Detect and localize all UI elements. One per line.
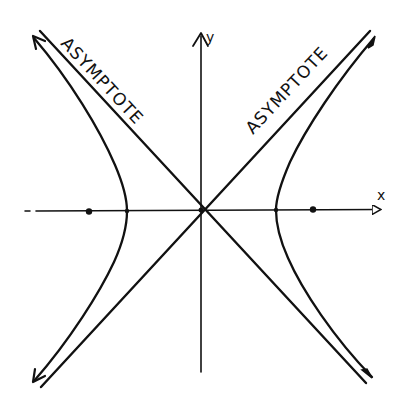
vertex-left [125, 209, 129, 213]
focus-left [86, 208, 92, 214]
vertex-right [274, 208, 278, 212]
arrowhead-icon [368, 36, 375, 48]
hyperbola-diagram: x y ASYMPTOTE ASYMPTOTE [0, 0, 403, 409]
asymptote-label-right: ASYMPTOTE [241, 42, 332, 137]
asymptote-nw-se [40, 31, 366, 383]
center-origin [199, 208, 204, 213]
arrowhead-icon [362, 369, 372, 378]
focus-right [310, 206, 316, 212]
x-axis-label: x [377, 187, 385, 203]
asymptote-label-left: ASYMPTOTE [57, 33, 148, 128]
y-axis-label: y [206, 29, 214, 45]
y-axis [193, 33, 208, 372]
